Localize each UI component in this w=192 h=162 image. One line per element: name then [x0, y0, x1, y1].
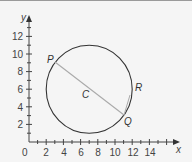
axes	[29, 19, 176, 142]
point-label-p: P	[47, 54, 54, 65]
y-axis-arrow-icon	[26, 15, 32, 22]
x-tick-label: 2	[43, 147, 49, 158]
coordinate-plane: 0 2 4 6 8 10 12 14 x 2 4 6 8 10 12 y P C…	[0, 1, 192, 162]
x-tick-label: 4	[61, 147, 67, 158]
diagram-frame: 0 2 4 6 8 10 12 14 x 2 4 6 8 10 12 y P C…	[0, 0, 192, 162]
origin-label: 0	[22, 147, 28, 158]
x-tick-label: 14	[144, 147, 156, 158]
point-label-c: C	[82, 89, 90, 100]
x-tick-label: 10	[109, 147, 121, 158]
y-tick-label: 2	[17, 119, 23, 130]
y-tick-label: 6	[17, 84, 23, 95]
x-tick-label: 8	[95, 147, 101, 158]
point-label-q: Q	[124, 116, 132, 127]
x-tick-label: 6	[78, 147, 84, 158]
point-label-r: R	[135, 82, 142, 93]
y-tick-label: 4	[17, 102, 23, 113]
y-axis-label: y	[20, 12, 27, 23]
y-tick-label: 12	[12, 31, 24, 42]
x-axis-label: x	[175, 144, 182, 155]
y-tick-label: 8	[17, 66, 23, 77]
y-tick-label: 10	[12, 49, 24, 60]
chord-pq	[55, 62, 124, 115]
x-tick-label: 12	[127, 147, 139, 158]
